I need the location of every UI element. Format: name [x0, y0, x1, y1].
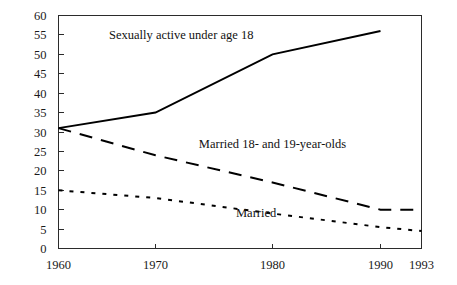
y-tick-label: 35 [34, 106, 47, 120]
y-axis-tick-marks [59, 16, 64, 249]
chart-figure: 051015202530354045505560 196019701980199… [0, 0, 457, 285]
line-chart-canvas: 051015202530354045505560 196019701980199… [0, 0, 457, 285]
series-annotation-label: Married [236, 206, 277, 220]
x-tick-label: 1990 [368, 258, 393, 272]
y-tick-label: 5 [40, 223, 46, 237]
series-annotation-label: Married 18- and 19-year-olds [199, 137, 346, 151]
y-tick-label: 15 [34, 184, 47, 198]
x-tick-label: 1970 [143, 258, 168, 272]
y-tick-label: 10 [34, 203, 47, 217]
x-tick-label: 1993 [409, 258, 434, 272]
y-tick-label: 0 [40, 242, 46, 256]
y-tick-label: 30 [34, 126, 47, 140]
y-tick-label: 40 [34, 87, 47, 101]
x-tick-label: 1980 [260, 258, 285, 272]
y-axis-tick-labels: 051015202530354045505560 [34, 9, 47, 256]
x-axis-tick-marks [156, 244, 422, 249]
y-tick-label: 60 [34, 9, 47, 23]
series-lines [59, 31, 422, 231]
y-tick-label: 20 [34, 164, 47, 178]
x-axis-tick-labels: 19601970198019901993 [46, 258, 434, 272]
y-tick-label: 50 [34, 48, 47, 62]
y-tick-label: 55 [34, 28, 47, 42]
series-line [59, 31, 381, 128]
series-annotation-label: Sexually active under age 18 [109, 28, 253, 42]
series-annotations: Sexually active under age 18Married 18- … [109, 28, 346, 220]
y-tick-label: 25 [34, 145, 47, 159]
y-tick-label: 45 [34, 67, 47, 81]
x-tick-label: 1960 [46, 258, 71, 272]
